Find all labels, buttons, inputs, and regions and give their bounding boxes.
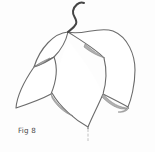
- flower-line-drawing: Fig 8: [0, 0, 155, 152]
- bottom-point-dot: [87, 128, 89, 130]
- figure-label: Fig 8: [18, 126, 36, 135]
- figure-canvas: Fig 8: [0, 0, 155, 152]
- stem-line: [68, 3, 84, 32]
